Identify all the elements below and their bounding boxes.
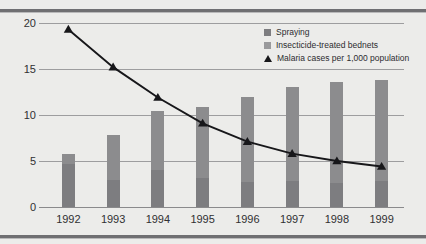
top-rule-highlight (0, 12, 426, 13)
legend-swatch-bednets-icon (264, 42, 271, 49)
x-tick-label: 1995 (181, 214, 225, 225)
legend-label-malaria-cases: Malaria cases per 1,000 population (277, 54, 409, 63)
legend-triangle-marker-icon (264, 55, 272, 62)
y-tick-mark (39, 161, 46, 162)
gridline-0 (46, 207, 404, 208)
y-tick-mark (39, 69, 46, 70)
y-tick-label: 10 (2, 110, 36, 121)
x-tick-label: 1999 (360, 214, 404, 225)
legend-label-spraying: Spraying (276, 28, 310, 37)
x-tick-label: 1993 (91, 214, 135, 225)
chart-figure: 05101520 1992199319941995199619971998199… (0, 0, 426, 244)
x-tick-label: 1994 (136, 214, 180, 225)
x-tick-label: 1997 (270, 214, 314, 225)
x-tick-label: 1996 (225, 214, 269, 225)
x-tick-label: 1998 (315, 214, 359, 225)
legend-item-bednets: Insecticide-treated bednets (264, 40, 416, 51)
y-tick-label: 20 (2, 18, 36, 29)
line-marker-triangle-icon (198, 119, 207, 127)
x-tick-label: 1992 (46, 214, 90, 225)
y-tick-label: 15 (2, 64, 36, 75)
legend-label-bednets: Insecticide-treated bednets (276, 41, 378, 50)
chart-legend: Spraying Insecticide-treated bednets Mal… (264, 27, 416, 66)
legend-item-spraying: Spraying (264, 27, 416, 38)
y-tick-mark (39, 23, 46, 24)
legend-swatch-spraying-icon (264, 29, 271, 36)
y-tick-mark (39, 207, 46, 208)
line-marker-triangle-icon (153, 93, 162, 101)
line-marker-triangle-icon (64, 25, 73, 33)
legend-item-malaria-cases: Malaria cases per 1,000 population (264, 53, 416, 64)
y-tick-label: 5 (2, 156, 36, 167)
y-tick-label: 0 (2, 202, 36, 213)
y-tick-mark (39, 115, 46, 116)
bottom-rule-highlight (0, 238, 426, 239)
